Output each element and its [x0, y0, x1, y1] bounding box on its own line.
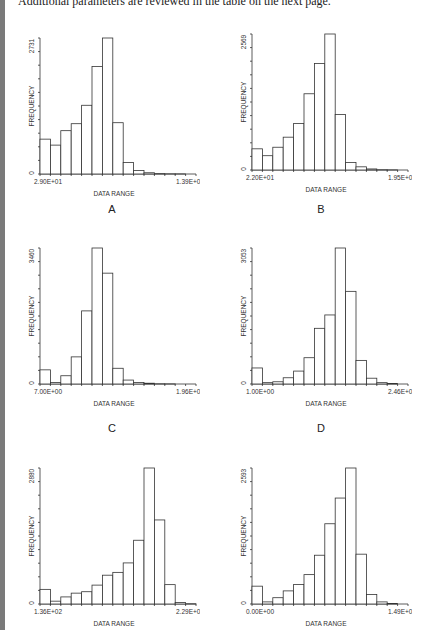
x-max-label: 1.95E+02	[388, 174, 412, 181]
histogram-bar	[335, 114, 345, 170]
histogram-bar	[61, 597, 71, 604]
histogram-bar	[304, 575, 314, 604]
y-axis-title: FREQUENCY	[240, 81, 248, 122]
histogram-panel-c: 34600FREQUENCY7.00E+001.96E+02DATA RANGE	[0, 238, 200, 413]
histogram-bar	[325, 524, 335, 604]
histogram-bar	[165, 585, 175, 604]
histogram-bar	[387, 603, 397, 604]
y-min-label: 0	[240, 601, 247, 605]
histogram-bar	[356, 554, 366, 604]
histogram-bar	[356, 360, 366, 384]
histogram-bar	[154, 520, 164, 604]
histogram-bar	[123, 163, 133, 174]
histogram-bar	[92, 66, 102, 174]
x-min-label: 7.00E+00	[34, 388, 62, 395]
histogram-svg: 30530FREQUENCY1.00E+002.46E+02DATA RANGE	[212, 238, 412, 413]
histogram-bar	[82, 105, 92, 174]
histogram-bar	[294, 585, 304, 604]
histogram-bar	[252, 586, 262, 604]
x-axis-title: DATA RANGE	[94, 400, 136, 407]
histogram-bar	[314, 555, 324, 604]
histogram-svg: 28800FREQUENCY1.36E+022.29E+02DATA RANGE	[0, 458, 200, 630]
histogram-bar	[273, 598, 283, 604]
histogram-bar	[377, 602, 387, 604]
histogram-bar	[283, 591, 293, 604]
histogram-bar	[346, 163, 356, 170]
panel-label-c: C	[92, 422, 132, 434]
histogram-bar	[283, 378, 293, 384]
histogram-bar	[123, 380, 133, 384]
y-min-label: 0	[240, 167, 247, 171]
histogram-bar	[304, 94, 314, 170]
histogram-bar	[134, 382, 144, 384]
histogram-bar	[134, 171, 144, 174]
histogram-bar	[82, 311, 92, 384]
y-max-label: 3053	[240, 248, 247, 263]
histogram-bar	[283, 137, 293, 170]
x-min-label: 1.36E+02	[34, 608, 62, 615]
histogram-bar	[40, 589, 50, 604]
histogram-bar	[92, 585, 102, 604]
histogram-bar	[377, 383, 387, 384]
histogram-svg: 27310FREQUENCY2.90E+011.39E+02DATA RANGE	[0, 28, 200, 203]
histogram-bar	[252, 368, 262, 384]
histogram-bar	[113, 368, 123, 384]
x-min-label: 0.00E+00	[246, 608, 274, 615]
histogram-bar	[346, 468, 356, 604]
y-axis-title: FREQUENCY	[28, 85, 36, 126]
y-axis-title: FREQUENCY	[28, 515, 36, 556]
histogram-bar	[82, 592, 92, 604]
y-max-label: 2569	[240, 34, 247, 49]
histogram-bar	[273, 382, 283, 384]
histogram-bar	[71, 124, 81, 174]
intro-text: Additional parameters are reviewed in th…	[18, 0, 331, 9]
histogram-bar	[356, 167, 366, 170]
histogram-bar	[366, 378, 376, 384]
y-min-label: 0	[240, 381, 247, 385]
y-axis-title: FREQUENCY	[240, 295, 248, 336]
y-max-label: 2731	[28, 38, 35, 53]
histogram-bar	[335, 248, 345, 384]
histogram-bar	[304, 358, 314, 384]
x-max-label: 1.96E+02	[176, 388, 200, 395]
panel-label-b: B	[301, 203, 341, 215]
histogram-bar	[61, 131, 71, 174]
x-axis-title: DATA RANGE	[306, 400, 348, 407]
y-min-label: 0	[28, 601, 35, 605]
histogram-bar	[335, 498, 345, 604]
y-max-label: 2880	[28, 468, 35, 483]
histogram-panel-f: 25930FREQUENCY0.00E+001.49E+02DATA RANGE	[212, 458, 412, 630]
histogram-panel-e: 28800FREQUENCY1.36E+022.29E+02DATA RANGE	[0, 458, 200, 630]
y-axis-title: FREQUENCY	[240, 515, 248, 556]
histogram-bar	[273, 147, 283, 170]
histogram-bar	[294, 371, 304, 384]
histogram-bar	[40, 139, 50, 174]
histogram-bar	[346, 291, 356, 384]
y-min-label: 0	[28, 171, 35, 175]
histogram-bar	[262, 383, 272, 384]
x-max-label: 1.39E+02	[176, 178, 200, 185]
histogram-bar	[252, 149, 262, 170]
histogram-bar	[50, 382, 60, 384]
y-axis-title: FREQUENCY	[28, 295, 36, 336]
histogram-bar	[175, 603, 185, 604]
x-max-label: 1.49E+02	[388, 608, 412, 615]
histogram-panel-d: 30530FREQUENCY1.00E+002.46E+02DATA RANGE	[212, 238, 412, 413]
histogram-bar	[325, 34, 335, 170]
histogram-bar	[50, 601, 60, 604]
histogram-panel-b: 25690FREQUENCY2.20E+011.95E+02DATA RANGE	[212, 24, 412, 199]
x-axis-title: DATA RANGE	[306, 186, 348, 193]
histogram-bar	[113, 123, 123, 174]
x-axis-title: DATA RANGE	[306, 620, 348, 627]
histogram-bar	[134, 540, 144, 604]
histogram-bar	[102, 273, 112, 384]
histogram-bar	[294, 123, 304, 170]
histogram-bar	[262, 156, 272, 170]
histogram-bar	[325, 315, 335, 384]
x-min-label: 1.00E+00	[246, 388, 274, 395]
histogram-bar	[113, 572, 123, 604]
histogram-bar	[71, 357, 81, 384]
histogram-bar	[102, 575, 112, 604]
histogram-panel-a: 27310FREQUENCY2.90E+011.39E+02DATA RANGE	[0, 28, 200, 203]
x-axis-title: DATA RANGE	[94, 620, 136, 627]
